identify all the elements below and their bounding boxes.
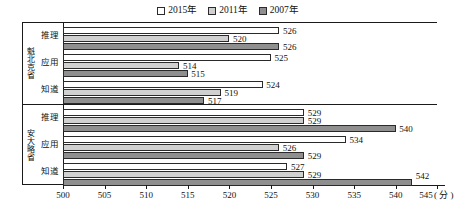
x-tick-label-500: 500 bbox=[56, 191, 70, 200]
bar-value-quebec-knowing-2015: 524 bbox=[266, 81, 280, 90]
bar-value-quebec-knowing-2007: 517 bbox=[208, 97, 222, 106]
x-tick-label-540: 540 bbox=[389, 191, 403, 200]
bar-value-quebec-application-2007: 515 bbox=[191, 70, 205, 79]
x-tick-510 bbox=[146, 185, 147, 189]
group-label-quebec: 魁北克省 bbox=[23, 28, 36, 98]
bar-ontario-application-2015 bbox=[63, 136, 346, 143]
category-label-ontario-reasoning: 推理 bbox=[38, 110, 62, 124]
bar-ontario-knowing-2007 bbox=[63, 179, 412, 186]
x-tick-535 bbox=[354, 185, 355, 189]
x-tick-545 bbox=[437, 185, 438, 189]
x-tick-label-505: 505 bbox=[98, 191, 112, 200]
bar-ontario-reasoning-2015 bbox=[63, 109, 304, 116]
bar-quebec-reasoning-2011 bbox=[63, 35, 229, 42]
x-tick-label-545: 545 bbox=[419, 191, 433, 200]
bar-quebec-application-2011 bbox=[63, 62, 179, 69]
x-tick-515 bbox=[188, 185, 189, 189]
legend-label-2011: 2011年 bbox=[219, 6, 248, 16]
category-label-quebec-knowing: 知道 bbox=[38, 82, 62, 96]
bar-quebec-application-2015 bbox=[63, 54, 271, 61]
bar-quebec-knowing-2015 bbox=[63, 81, 263, 88]
bar-value-ontario-reasoning-2007: 540 bbox=[399, 125, 413, 134]
x-tick-label-535: 535 bbox=[347, 191, 361, 200]
bar-value-quebec-reasoning-2015: 526 bbox=[283, 27, 297, 36]
bar-quebec-reasoning-2015 bbox=[63, 27, 279, 34]
group-label-ontario: 安大略省 bbox=[23, 110, 36, 180]
bar-ontario-reasoning-2011 bbox=[63, 117, 304, 124]
bar-quebec-knowing-2007 bbox=[63, 97, 204, 104]
x-tick-label-515: 515 bbox=[181, 191, 195, 200]
bar-value-quebec-knowing-2011: 519 bbox=[225, 89, 239, 98]
dark-gray-swatch-icon bbox=[259, 7, 267, 15]
bar-value-quebec-reasoning-2007: 526 bbox=[283, 43, 297, 52]
bar-ontario-knowing-2015 bbox=[63, 163, 287, 170]
bar-chart: 2015年 2011年 2007年 魁北克省 安大略省 推理 应用 知道 推理 … bbox=[0, 0, 456, 219]
legend-item-2007: 2007年 bbox=[259, 6, 299, 16]
legend-item-2015: 2015年 bbox=[157, 6, 197, 16]
legend-label-2007: 2007年 bbox=[270, 6, 299, 16]
x-tick-530 bbox=[313, 185, 314, 189]
chart-legend: 2015年 2011年 2007年 bbox=[0, 6, 456, 16]
bar-value-ontario-application-2007: 529 bbox=[308, 152, 322, 161]
x-tick-500 bbox=[63, 185, 64, 189]
x-tick-label-530: 530 bbox=[306, 191, 320, 200]
bar-value-ontario-application-2015: 534 bbox=[349, 136, 363, 145]
x-tick-540 bbox=[396, 185, 397, 189]
bar-ontario-reasoning-2007 bbox=[63, 125, 396, 132]
group-divider-line bbox=[22, 104, 63, 105]
category-label-quebec-application: 应用 bbox=[38, 55, 62, 69]
category-label-ontario-knowing: 知道 bbox=[38, 164, 62, 178]
legend-label-2015: 2015年 bbox=[168, 6, 197, 16]
plot-top-border bbox=[63, 22, 437, 23]
x-tick-label-510: 510 bbox=[139, 191, 153, 200]
x-tick-505 bbox=[105, 185, 106, 189]
bar-quebec-application-2007 bbox=[63, 70, 188, 77]
x-tick-label-520: 520 bbox=[223, 191, 237, 200]
bar-value-quebec-application-2015: 525 bbox=[275, 54, 289, 63]
bar-ontario-application-2011 bbox=[63, 144, 279, 151]
bar-ontario-knowing-2011 bbox=[63, 171, 304, 178]
bar-quebec-reasoning-2007 bbox=[63, 43, 279, 50]
x-tick-label-525: 525 bbox=[264, 191, 278, 200]
white-swatch-icon bbox=[157, 7, 165, 15]
bar-ontario-application-2007 bbox=[63, 152, 304, 159]
category-label-ontario-application: 应用 bbox=[38, 137, 62, 151]
light-gray-swatch-icon bbox=[208, 7, 216, 15]
category-label-quebec-reasoning: 推理 bbox=[38, 28, 62, 42]
x-axis-unit-label: ( 分 ) bbox=[434, 191, 454, 200]
x-tick-525 bbox=[271, 185, 272, 189]
legend-item-2011: 2011年 bbox=[208, 6, 248, 16]
bar-value-ontario-knowing-2007: 542 bbox=[416, 172, 430, 181]
bar-quebec-knowing-2011 bbox=[63, 89, 221, 96]
x-tick-520 bbox=[229, 185, 230, 189]
